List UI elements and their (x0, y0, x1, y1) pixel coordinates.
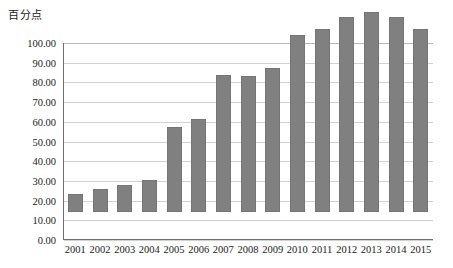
bar-2008 (241, 76, 256, 212)
bar-2012 (339, 17, 354, 212)
bar-2009 (265, 68, 280, 212)
x-tick-label-2012: 2012 (336, 243, 357, 256)
x-tick-label-2009: 2009 (262, 243, 283, 256)
y-tick-label-70: 70.00 (32, 97, 56, 108)
x-tick-label-2003: 2003 (114, 243, 135, 256)
y-tick-label-100: 100.00 (27, 38, 56, 49)
bar-2013 (364, 12, 379, 212)
x-tick-label-2001: 2001 (65, 243, 86, 256)
x-tick-label-2015: 2015 (410, 243, 431, 256)
bars-layer (63, 0, 433, 240)
bar-2006 (191, 119, 206, 212)
gridline-0 (64, 240, 433, 241)
y-axis-tick-labels: 100.0090.0080.0070.0060.0050.0040.0030.0… (0, 0, 63, 240)
bar-2004 (142, 180, 157, 212)
x-tick-label-2008: 2008 (238, 243, 259, 256)
y-tick-label-40: 40.00 (32, 156, 56, 167)
x-tick-label-2014: 2014 (386, 243, 407, 256)
bar-2005 (167, 127, 182, 212)
y-tick-label-10: 10.00 (32, 215, 56, 226)
x-tick-label-2006: 2006 (188, 243, 209, 256)
x-tick-label-2004: 2004 (139, 243, 160, 256)
y-tick-label-60: 60.00 (32, 116, 56, 127)
y-tick-label-80: 80.00 (32, 77, 56, 88)
y-tick-label-90: 90.00 (32, 57, 56, 68)
y-tick-label-50: 50.00 (32, 136, 56, 147)
x-tick-label-2010: 2010 (287, 243, 308, 256)
y-tick-label-20: 20.00 (32, 195, 56, 206)
x-tick-label-2013: 2013 (361, 243, 382, 256)
bar-2001 (68, 194, 83, 212)
y-tick-label-30: 30.00 (32, 175, 56, 186)
x-tick-label-2011: 2011 (312, 243, 333, 256)
x-tick-label-2007: 2007 (213, 243, 234, 256)
bar-2011 (315, 29, 330, 212)
bar-chart-figure: 百分点 100.0090.0080.0070.0060.0050.0040.00… (0, 0, 453, 268)
bar-2010 (290, 35, 305, 212)
x-tick-label-2005: 2005 (164, 243, 185, 256)
bar-2015 (413, 29, 428, 212)
y-tick-label-0: 0.00 (38, 235, 56, 246)
bar-2003 (117, 185, 132, 212)
x-axis-tick-labels: 年份 2001200220032004200520062007200820092… (63, 243, 453, 263)
bar-2014 (389, 17, 404, 212)
bar-2007 (216, 75, 231, 212)
bar-2002 (93, 189, 108, 212)
x-tick-label-2002: 2002 (90, 243, 111, 256)
